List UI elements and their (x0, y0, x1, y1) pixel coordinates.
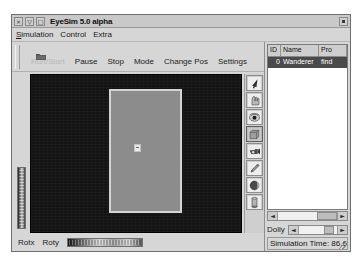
dolly-controls: Dolly ◄ ► (267, 222, 348, 237)
scroll-left-icon[interactable]: ◄ (268, 212, 278, 220)
close-icon[interactable]: × (14, 17, 23, 26)
menu-extra[interactable]: Extra (93, 30, 112, 39)
camera-icon[interactable] (246, 143, 263, 159)
cylinder-icon[interactable] (246, 194, 263, 210)
dolly-label: Dolly (267, 225, 285, 234)
window-menu-icon[interactable] (339, 17, 348, 26)
dolly-thumb[interactable] (324, 226, 334, 234)
column-header-id[interactable]: ID (268, 45, 281, 56)
window-body: Run/Start Pause Stop Mode Change Pos Set… (12, 42, 350, 251)
table-row[interactable]: 0 Wanderer find (268, 57, 347, 68)
rotx-slider-column (12, 74, 30, 233)
dolly-track[interactable] (299, 226, 337, 234)
toolbar-button-group: Run/Start Pause Stop Mode Change Pos Set… (26, 57, 252, 66)
change-pos-button[interactable]: Change Pos (159, 57, 213, 66)
object-list-header: ID Name Pro (268, 45, 347, 57)
menu-simulation[interactable]: Simulation (16, 30, 53, 39)
window-title: EyeSim 5.0 alpha (50, 17, 112, 26)
sphere-icon[interactable] (246, 177, 263, 193)
settings-button[interactable]: Settings (213, 57, 252, 66)
box-icon[interactable] (246, 126, 263, 142)
dolly-scrollbar[interactable]: ◄ ► (288, 225, 348, 235)
cell-id: 0 (268, 57, 281, 68)
pause-button[interactable]: Pause (70, 57, 103, 66)
rotx-label: Rotx (18, 238, 34, 247)
rotation-controls: Rotx Roty (12, 233, 264, 251)
menu-simulation-label: imulation (21, 30, 53, 39)
hscroll-thumb[interactable] (317, 212, 337, 220)
object-list-hscrollbar[interactable]: ◄ ► (267, 211, 348, 221)
main-toolbar: Run/Start Pause Stop Mode Change Pos Set… (12, 42, 264, 72)
robot-object[interactable] (134, 144, 141, 152)
mode-button[interactable]: Mode (129, 57, 159, 66)
eye-rotate-icon[interactable] (246, 109, 263, 125)
minimize-icon[interactable]: ▽ (25, 17, 34, 26)
rotx-slider[interactable] (17, 167, 26, 229)
cell-program: find (319, 57, 347, 68)
cell-name: Wanderer (281, 57, 319, 68)
hscroll-track[interactable] (278, 212, 337, 220)
column-header-name[interactable]: Name (281, 45, 319, 56)
run-start-button[interactable]: Run/Start (26, 57, 70, 66)
simulation-time-label: Simulation Time: 86.6 (270, 239, 347, 248)
right-pane: ID Name Pro 0 Wanderer find ◄ ► (265, 42, 350, 251)
resize-grip-icon[interactable] (339, 242, 346, 249)
status-bar: Simulation Time: 86.6 (267, 237, 348, 250)
eyesim-main-window: × ▽ □ EyeSim 5.0 alpha Simulation Contro… (11, 14, 351, 252)
object-list-empty-area (268, 68, 347, 209)
3d-simulation-view[interactable] (30, 74, 242, 233)
column-header-program[interactable]: Pro (319, 45, 347, 56)
dolly-scroll-left-icon[interactable]: ◄ (289, 226, 299, 234)
toolbar-drag-handle[interactable] (15, 45, 20, 69)
viewport-row (12, 72, 264, 233)
dolly-scroll-right-icon[interactable]: ► (337, 226, 347, 234)
view-tool-strip (244, 74, 264, 233)
pencil-icon[interactable] (246, 160, 263, 176)
scroll-right-icon[interactable]: ► (337, 212, 347, 220)
menubar: Simulation Control Extra (12, 28, 350, 42)
menu-control[interactable]: Control (60, 30, 86, 39)
left-pane: Run/Start Pause Stop Mode Change Pos Set… (12, 42, 265, 251)
window-titlebar: × ▽ □ EyeSim 5.0 alpha (12, 15, 350, 28)
maximize-icon[interactable]: □ (36, 17, 45, 26)
arena-floor (109, 89, 183, 213)
roty-slider[interactable] (67, 238, 143, 247)
hand-icon[interactable] (246, 92, 263, 108)
stop-button[interactable]: Stop (102, 57, 128, 66)
roty-label: Roty (42, 238, 58, 247)
folder-icon[interactable] (36, 46, 46, 53)
cursor-arrow-icon[interactable] (246, 75, 263, 91)
object-list[interactable]: ID Name Pro 0 Wanderer find (267, 44, 348, 210)
